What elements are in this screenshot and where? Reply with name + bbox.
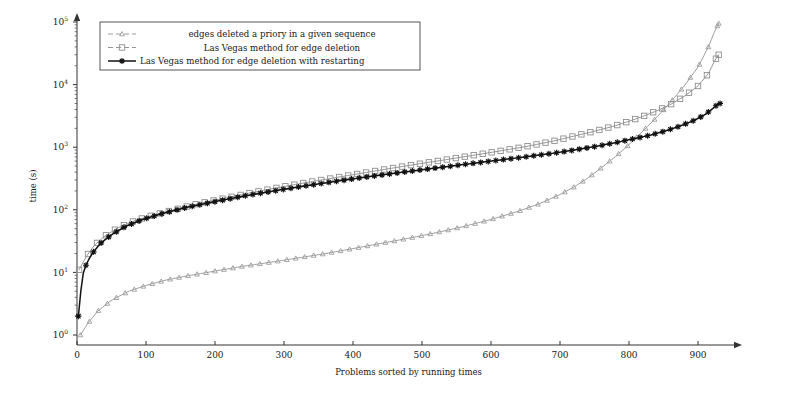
- star-marker: [144, 215, 150, 221]
- star-marker: [258, 190, 264, 196]
- star-marker: [660, 129, 666, 135]
- star-marker: [690, 118, 696, 124]
- star-marker: [197, 202, 203, 208]
- star-marker: [554, 150, 560, 156]
- star-marker: [121, 224, 127, 230]
- star-marker: [91, 249, 97, 255]
- x-tick-label: 500: [413, 350, 430, 360]
- star-marker: [683, 121, 689, 127]
- star-marker: [614, 139, 620, 145]
- star-marker: [705, 109, 711, 115]
- x-tick-label: 700: [551, 350, 568, 360]
- star-marker: [174, 207, 180, 213]
- legend-item[interactable]: Las Vegas method for edge deletion with …: [108, 56, 365, 66]
- star-marker: [371, 173, 377, 179]
- star-marker: [675, 124, 681, 130]
- x-tick-label: 800: [620, 350, 637, 360]
- star-marker: [629, 136, 635, 142]
- star-marker: [637, 134, 643, 140]
- star-marker: [417, 167, 423, 173]
- star-marker: [531, 153, 537, 159]
- star-marker: [523, 154, 529, 160]
- legend-label: edges deleted a priory in a given sequen…: [189, 29, 376, 39]
- star-marker: [569, 147, 575, 153]
- star-marker: [478, 159, 484, 165]
- star-marker: [280, 186, 286, 192]
- y-tick-label: 100: [53, 328, 68, 340]
- x-tick-label: 0: [74, 350, 80, 360]
- y-tick-label: 103: [53, 140, 68, 152]
- y-tick-label: 104: [53, 78, 68, 90]
- legend-label: Las Vegas method for edge deletion: [204, 43, 361, 53]
- star-marker: [265, 189, 271, 195]
- legend: edges deleted a priory in a given sequen…: [100, 22, 420, 70]
- star-marker: [508, 156, 514, 162]
- x-axis-title: Problems sorted by running times: [335, 367, 482, 377]
- star-marker: [462, 161, 468, 167]
- star-marker: [119, 58, 125, 64]
- star-marker: [387, 171, 393, 177]
- star-marker: [151, 213, 157, 219]
- star-marker: [311, 182, 317, 188]
- star-marker: [288, 185, 294, 191]
- star-marker: [485, 158, 491, 164]
- star-marker: [470, 160, 476, 166]
- star-marker: [493, 157, 499, 163]
- star-marker: [667, 126, 673, 132]
- star-marker: [326, 179, 332, 185]
- star-marker: [212, 199, 218, 205]
- star-marker: [592, 144, 598, 150]
- star-marker: [318, 181, 324, 187]
- star-marker: [394, 170, 400, 176]
- star-marker: [189, 203, 195, 209]
- x-tick-label: 300: [275, 350, 292, 360]
- star-marker: [227, 196, 233, 202]
- star-marker: [364, 174, 370, 180]
- x-tick-label: 900: [689, 350, 706, 360]
- star-marker: [182, 205, 188, 211]
- star-marker: [83, 262, 89, 268]
- star-marker: [561, 149, 567, 155]
- star-marker: [341, 177, 347, 183]
- star-marker: [220, 197, 226, 203]
- star-marker: [250, 191, 256, 197]
- star-marker: [447, 163, 453, 169]
- star-marker: [652, 131, 658, 137]
- star-marker: [500, 157, 506, 163]
- series-line: [79, 55, 719, 270]
- star-marker: [717, 100, 723, 106]
- star-marker: [455, 162, 461, 168]
- star-marker: [136, 218, 142, 224]
- y-axis-arrow: [74, 13, 80, 21]
- star-marker: [129, 221, 135, 227]
- star-marker: [235, 194, 241, 200]
- star-marker: [584, 145, 590, 151]
- x-tick-label: 600: [482, 350, 499, 360]
- y-tick-label: 101: [53, 266, 68, 278]
- star-marker: [98, 240, 104, 246]
- star-marker: [546, 151, 552, 157]
- x-tick-label: 100: [137, 350, 154, 360]
- figure-container: 1001011021031041050100200300400500600700…: [0, 0, 790, 396]
- star-marker: [599, 142, 605, 148]
- star-marker: [333, 178, 339, 184]
- line-chart: 1001011021031041050100200300400500600700…: [0, 0, 790, 396]
- star-marker: [159, 211, 165, 217]
- star-marker: [698, 114, 704, 120]
- star-marker: [432, 165, 438, 171]
- star-marker: [607, 141, 613, 147]
- x-tick-label: 200: [206, 350, 223, 360]
- star-marker: [538, 152, 544, 158]
- y-axis-title: time (s): [28, 170, 38, 203]
- star-marker: [204, 200, 210, 206]
- star-marker: [303, 183, 309, 189]
- y-tick-label: 102: [53, 203, 68, 215]
- star-marker: [242, 193, 248, 199]
- x-axis-arrow: [734, 342, 742, 348]
- star-marker: [440, 164, 446, 170]
- x-tick-label: 400: [344, 350, 361, 360]
- star-marker: [402, 169, 408, 175]
- star-marker: [273, 188, 279, 194]
- star-marker: [113, 229, 119, 235]
- star-marker: [425, 166, 431, 172]
